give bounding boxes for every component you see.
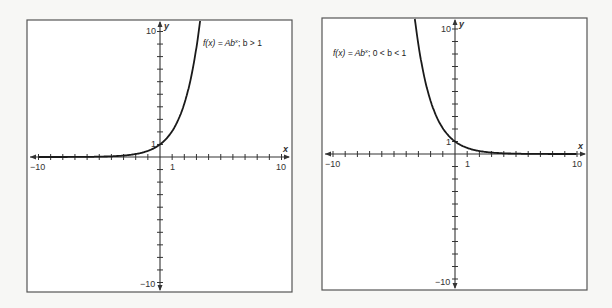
chart-decay: y x 10 1 −10 −10 1 10 f(x) = Abx; 0 < b … [322,18,587,290]
chart-growth: y x 10 1 −10 −10 1 10 f(x) = Abx; b > 1 [27,20,292,292]
y-tick-label-neg10: −10 [140,279,155,289]
x-tick-label-1: 1 [170,162,175,172]
y-axis-label: y [458,19,465,29]
x-tick-label-10: 10 [572,159,582,169]
x-axis-label: x [282,144,289,154]
x-tick-label-1: 1 [465,159,470,169]
x-tick-label-neg10: −10 [325,159,340,169]
y-tick-label-10: 10 [146,26,156,36]
x-tick-label-neg10: −10 [30,162,45,172]
function-annotation: f(x) = Abx; b > 1 [203,38,262,48]
y-axis-label: y [163,21,170,31]
charts-canvas: y x 10 1 −10 −10 1 10 f(x) = Abx; b > 1 … [0,0,612,308]
y-tick-label-1: 1 [151,139,156,149]
x-axis-label: x [577,141,584,151]
y-tick-label-10: 10 [441,24,451,34]
y-tick-label-neg10: −10 [435,277,450,287]
y-tick-label-1: 1 [446,137,451,147]
x-tick-label-10: 10 [276,162,286,172]
function-annotation: f(x) = Abx; 0 < b < 1 [333,48,407,58]
